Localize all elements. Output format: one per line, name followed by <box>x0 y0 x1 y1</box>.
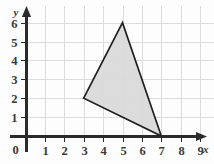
y-tick-label: 4 <box>11 54 18 68</box>
x-tick-label: 5 <box>120 144 126 158</box>
plot-svg: 1234567891234560xy <box>0 0 214 164</box>
y-tick-label: 6 <box>11 17 17 31</box>
x-axis-arrow-icon <box>196 132 207 141</box>
x-tick-label: 6 <box>139 144 145 158</box>
x-tick-label: 7 <box>158 144 164 158</box>
y-tick-label: 2 <box>11 92 17 106</box>
x-tick-label: 2 <box>61 144 67 158</box>
x-axis-label: x <box>202 143 209 155</box>
y-tick-label: 3 <box>11 73 17 87</box>
y-tick-label: 1 <box>11 111 17 125</box>
y-axis-arrow-icon <box>22 6 31 17</box>
y-axis-label: y <box>12 6 19 18</box>
origin-label: 0 <box>12 143 18 157</box>
coordinate-plane-figure: 1234567891234560xy <box>0 0 214 164</box>
x-tick-label: 4 <box>100 144 107 158</box>
x-tick-label: 8 <box>178 144 184 158</box>
y-tick-label: 5 <box>11 36 17 50</box>
x-tick-label: 1 <box>42 144 48 158</box>
x-tick-label: 3 <box>81 144 87 158</box>
